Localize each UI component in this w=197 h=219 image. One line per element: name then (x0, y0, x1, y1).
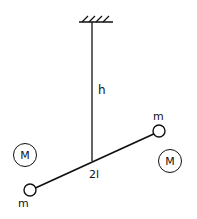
diagram-canvas: h 2l m m M M (0, 0, 197, 219)
small-mass-top (153, 125, 165, 137)
large-mass-right-label: M (165, 155, 175, 168)
small-mass-bottom (24, 184, 36, 196)
large-mass-left-label: M (20, 149, 30, 162)
height-label: h (98, 83, 106, 97)
small-mass-top-label: m (153, 110, 164, 123)
rod-length-label: 2l (89, 168, 99, 181)
ceiling-support (79, 16, 113, 22)
dumbbell-rod (31, 132, 158, 190)
small-mass-bottom-label: m (18, 197, 29, 210)
